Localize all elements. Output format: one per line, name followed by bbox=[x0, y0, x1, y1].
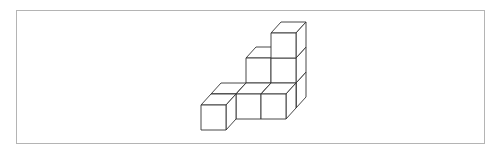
unit-cube bbox=[201, 94, 236, 130]
cube-stack-diagram bbox=[0, 0, 494, 155]
unit-cube bbox=[261, 83, 296, 119]
unit-cube bbox=[271, 22, 306, 58]
